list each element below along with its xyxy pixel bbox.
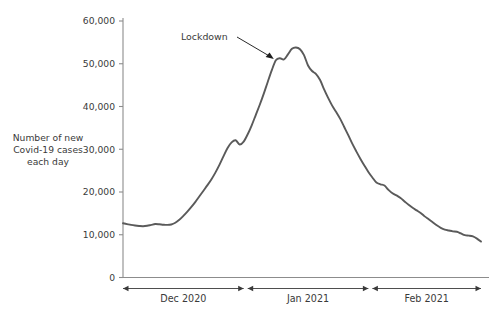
covid-cases-series xyxy=(123,47,481,241)
y-axis-ticks: 010,00020,00030,00040,00050,00060,000 xyxy=(83,15,123,283)
y-axis-title-line-3: each day xyxy=(27,156,70,167)
month-range-arrow-head-icon xyxy=(238,286,244,292)
month-range-arrow-head-icon xyxy=(372,286,378,292)
lockdown-leader-line xyxy=(237,37,271,57)
lockdown-annotation: Lockdown xyxy=(181,31,274,59)
y-axis-title: Number of new Covid-19 cases each day xyxy=(13,132,84,167)
month-range-arrow-head-icon xyxy=(476,286,482,292)
y-tick-label: 50,000 xyxy=(83,58,115,69)
month-range-arrow-head-icon xyxy=(248,286,254,292)
y-tick-label: 60,000 xyxy=(83,15,115,26)
lockdown-label: Lockdown xyxy=(181,31,228,42)
y-tick-label: 0 xyxy=(109,272,115,283)
x-axis-month-ranges: Dec 2020Jan 2021Feb 2021 xyxy=(123,286,481,304)
y-axis-title-line-2: Covid-19 cases xyxy=(13,144,83,155)
y-tick-label: 10,000 xyxy=(83,229,115,240)
lockdown-arrow-head-icon xyxy=(266,53,274,60)
month-range-arrow-head-icon xyxy=(123,286,129,292)
y-tick-label: 30,000 xyxy=(83,144,115,155)
covid-cases-line-chart: Number of new Covid-19 cases each day 01… xyxy=(0,0,495,315)
y-axis-title-line-1: Number of new xyxy=(13,132,84,143)
y-tick-label: 40,000 xyxy=(83,101,115,112)
month-range-label: Dec 2020 xyxy=(160,293,206,304)
month-range-label: Feb 2021 xyxy=(404,293,448,304)
chart-svg: Number of new Covid-19 cases each day 01… xyxy=(0,0,495,315)
month-range-arrow-head-icon xyxy=(363,286,369,292)
y-tick-label: 20,000 xyxy=(83,186,115,197)
month-range-label: Jan 2021 xyxy=(286,293,329,304)
